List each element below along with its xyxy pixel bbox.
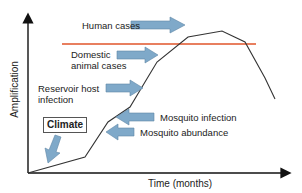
label-domestic-line1: Domestic xyxy=(71,49,111,60)
arrow-mosquito-infection-icon xyxy=(116,109,154,125)
label-mosquito-infection: Mosquito infection xyxy=(160,112,237,123)
label-reservoir-line2: infection xyxy=(38,94,73,105)
climate-box: Climate xyxy=(43,117,87,133)
label-human-cases: Human cases xyxy=(82,20,140,31)
label-mosquito-abundance: Mosquito abundance xyxy=(140,127,228,138)
x-axis-label: Time (months) xyxy=(148,178,212,189)
label-reservoir-line1: Reservoir host xyxy=(38,83,99,94)
y-axis-label: Amplification xyxy=(9,60,20,120)
arrow-mosquito-abundance-icon xyxy=(106,124,134,140)
label-domestic-line2: animal cases xyxy=(71,60,126,71)
arrow-climate-icon xyxy=(45,135,61,163)
